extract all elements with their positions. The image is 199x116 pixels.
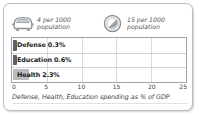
x-tick-label: 15 bbox=[113, 83, 121, 90]
spending-bar-chart: Defense 0.3%Education 0.6%Health 2.3% bbox=[11, 37, 187, 83]
bar-row: Health 2.3% bbox=[12, 67, 186, 82]
stat-telephones-line1: 15 per 1000 bbox=[127, 16, 165, 23]
chart-caption: Defense, Health, Education spending as %… bbox=[12, 93, 190, 101]
stat-vehicles-line1: 4 per 1000 bbox=[37, 16, 71, 23]
stat-vehicles-line2: population bbox=[37, 23, 70, 30]
telephone-dial-icon bbox=[100, 13, 125, 33]
bar-row: Defense 0.3% bbox=[12, 38, 186, 53]
stat-telephones-text: 15 per 1000 population bbox=[125, 16, 165, 31]
car-icon bbox=[10, 13, 35, 33]
x-tick-label: 10 bbox=[78, 83, 86, 90]
plot-area: Defense 0.3%Education 0.6%Health 2.3% bbox=[11, 37, 187, 83]
stat-vehicles-text: 4 per 1000 population bbox=[35, 16, 71, 31]
bar-label-defense: Defense 0.3% bbox=[12, 41, 65, 49]
bar-rows: Defense 0.3%Education 0.6%Health 2.3% bbox=[12, 38, 186, 82]
stat-telephones: 15 per 1000 population bbox=[100, 13, 188, 33]
stats-row: 4 per 1000 population 15 per 1000 popula… bbox=[10, 8, 188, 38]
x-axis: 0510152025 bbox=[11, 83, 187, 92]
x-tick-label: 0 bbox=[12, 83, 16, 90]
x-tick-label: 25 bbox=[179, 83, 187, 90]
stat-telephones-line2: population bbox=[127, 23, 160, 30]
infographic-panel: 4 per 1000 population 15 per 1000 popula… bbox=[3, 3, 193, 111]
x-tick-label: 20 bbox=[148, 83, 156, 90]
bar-label-education: Education 0.6% bbox=[12, 56, 71, 64]
bar-label-health: Health 2.3% bbox=[12, 71, 60, 79]
x-tick-label: 5 bbox=[44, 83, 48, 90]
bar-row: Education 0.6% bbox=[12, 53, 186, 68]
stat-vehicles: 4 per 1000 population bbox=[10, 13, 100, 33]
caption-divider bbox=[12, 103, 188, 104]
